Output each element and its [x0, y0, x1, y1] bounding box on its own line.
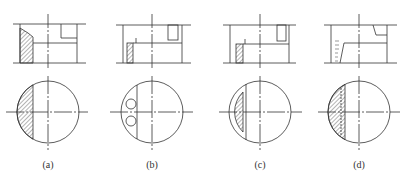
panel-c-section-view [223, 14, 296, 70]
panel-a-top-view [6, 76, 88, 150]
panel-d-section-view [324, 14, 397, 70]
panel-label-b: (b) [137, 159, 167, 170]
panel-b-section-view [116, 14, 191, 70]
drawing-canvas [0, 0, 406, 183]
panel-a-section-view [13, 14, 86, 70]
panel-label-a: (a) [33, 159, 63, 170]
panel-label-c: (c) [245, 159, 275, 170]
panel-d-top-view [318, 76, 400, 150]
panel-label-d: (d) [344, 159, 374, 170]
panel-c-top-view [219, 76, 302, 150]
panel-b-top-view [110, 76, 193, 150]
